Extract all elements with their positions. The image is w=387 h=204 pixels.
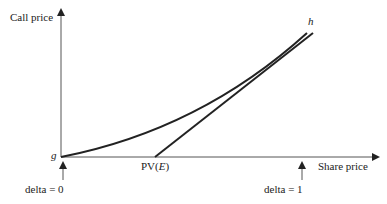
curve-label: h bbox=[308, 15, 314, 27]
call-price-curve bbox=[61, 33, 307, 157]
strike-prefix: PV( bbox=[141, 160, 159, 172]
diagram-canvas bbox=[0, 0, 387, 204]
delta-one-label: delta = 1 bbox=[264, 183, 303, 195]
lower-bound-line bbox=[155, 33, 313, 157]
origin-label: g bbox=[51, 149, 57, 161]
delta-zero-label: delta = 0 bbox=[25, 183, 64, 195]
strike-label: PV(E) bbox=[141, 160, 169, 172]
strike-suffix: ) bbox=[165, 160, 169, 172]
x-axis-label: Share price bbox=[318, 160, 368, 172]
y-axis-label: Call price bbox=[10, 11, 53, 23]
